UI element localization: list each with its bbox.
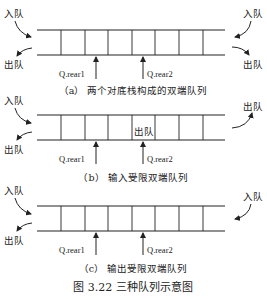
dequeue-right-label: 出队 <box>243 101 263 112</box>
dequeue-left-arrow-icon <box>17 132 32 140</box>
queue-cells <box>61 206 203 231</box>
pointer-rear2-label: Q.rear2 <box>147 245 173 255</box>
enqueue-right-label: 入队 <box>243 8 263 19</box>
enqueue-left-arrow-icon <box>15 21 31 37</box>
queue-cells <box>61 115 203 140</box>
queue-diagram-figure: 入队 出队 入队 出队 Q.rear1 Q.rear2 （a） 两个对底栈构成的… <box>0 0 267 299</box>
panel-a-caption: （a） 两个对底栈构成的双端队列 <box>59 85 208 96</box>
dequeue-left-label: 出队 <box>4 144 24 155</box>
pointer-rear1-label: Q.rear1 <box>59 245 85 255</box>
dequeue-right-label: 出队 <box>243 59 263 70</box>
dequeue-left-label: 出队 <box>4 59 24 70</box>
panel-b: 入队 出队 出队 出队 Q.rear1 Q.rear2 （b） 输入受限双端队列 <box>4 95 263 183</box>
enqueue-right-arrow-icon <box>235 204 251 219</box>
dequeue-left-arrow-icon <box>17 223 32 231</box>
enqueue-left-arrow-icon <box>15 198 31 214</box>
enqueue-left-arrow-icon <box>15 108 31 123</box>
panel-c: 入队 出队 入队 Q.rear1 Q.rear2 （c） 输出受限双端队列 <box>4 185 263 274</box>
dequeue-right-arrow-icon <box>232 113 252 128</box>
panel-a: 入队 出队 入队 出队 Q.rear1 Q.rear2 （a） 两个对底栈构成的… <box>4 8 263 96</box>
queue-cells <box>61 30 203 55</box>
dequeue-right-arrow-icon <box>232 47 249 55</box>
enqueue-right-arrow-icon <box>235 21 251 37</box>
dequeue-inner-label: 出队 <box>134 126 154 137</box>
enqueue-right-label: 入队 <box>243 191 263 202</box>
dequeue-left-arrow-icon <box>17 48 32 56</box>
pointer-rear1-label: Q.rear1 <box>59 154 85 164</box>
dequeue-left-label: 出队 <box>4 235 24 246</box>
panel-b-caption: （b） 输入受限双端队列 <box>78 172 187 183</box>
pointer-rear2-label: Q.rear2 <box>147 154 173 164</box>
panel-c-caption: （c） 输出受限双端队列 <box>79 263 187 274</box>
pointer-rear2-label: Q.rear2 <box>147 69 173 79</box>
enqueue-left-label: 入队 <box>4 95 24 106</box>
pointer-rear1-label: Q.rear1 <box>59 69 85 79</box>
enqueue-left-label: 入队 <box>4 8 24 19</box>
figure-title: 图 3.22 三种队列示意图 <box>73 280 193 294</box>
enqueue-left-label: 入队 <box>4 185 24 196</box>
